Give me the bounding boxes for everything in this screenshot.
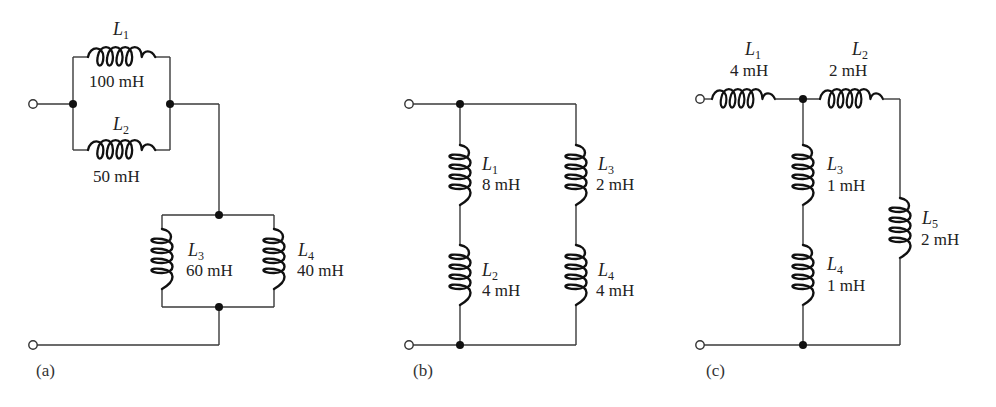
inductor-l3-name: L3 bbox=[826, 154, 843, 177]
panel-b: L1 8 mH L2 4 mH L3 2 mH L4 4 mH (b) bbox=[405, 100, 634, 380]
panel-c-caption: (c) bbox=[706, 361, 725, 380]
inductor-l3-coil-icon bbox=[793, 145, 814, 205]
inductor-l1-coil-icon bbox=[712, 89, 775, 108]
inductor-l1-value: 8 mH bbox=[482, 175, 520, 194]
inductor-l1-name: L1 bbox=[744, 39, 761, 62]
inductor-l1-value: 100 mH bbox=[89, 72, 144, 91]
inductor-l3-value: 2 mH bbox=[596, 175, 634, 194]
inductor-l4-coil-icon bbox=[566, 245, 587, 305]
inductor-l3-coil-icon bbox=[566, 145, 587, 205]
inductor-l2-coil-icon bbox=[450, 245, 471, 305]
inductor-l1-coil-icon bbox=[88, 47, 155, 66]
inductor-l2-value: 2 mH bbox=[829, 61, 867, 80]
panel-a: L1 100 mH L2 50 mH L3 60 mH L4 40 mH (a) bbox=[29, 19, 344, 380]
inductor-l5-value: 2 mH bbox=[921, 230, 959, 249]
panel-c: L1 4 mH L2 2 mH L3 1 mH L4 1 mH L5 2 mH … bbox=[696, 39, 959, 380]
inductor-l4-coil-icon bbox=[793, 245, 814, 305]
inductor-l2-coil-icon bbox=[820, 89, 883, 108]
terminal-icon bbox=[696, 95, 704, 103]
terminal-icon bbox=[696, 341, 704, 349]
inductor-l4-value: 1 mH bbox=[827, 276, 865, 295]
inductor-l4-name: L4 bbox=[597, 260, 614, 283]
inductor-l2-value: 4 mH bbox=[482, 281, 520, 300]
inductor-l4-value: 4 mH bbox=[596, 281, 634, 300]
inductor-l2-name: L2 bbox=[851, 39, 868, 62]
junction-dot-icon bbox=[215, 211, 223, 219]
inductor-circuits-figure: L1 100 mH L2 50 mH L3 60 mH L4 40 mH (a)… bbox=[0, 0, 996, 407]
inductor-l4-coil-icon bbox=[264, 229, 285, 289]
inductor-l1-value: 4 mH bbox=[730, 61, 768, 80]
junction-dot-icon bbox=[799, 95, 807, 103]
junction-dot-icon bbox=[166, 100, 174, 108]
inductor-l3-value: 60 mH bbox=[186, 261, 233, 280]
terminal-icon bbox=[29, 100, 37, 108]
junction-dot-icon bbox=[799, 341, 807, 349]
inductor-l4-name: L4 bbox=[826, 254, 843, 277]
inductor-l3-name: L3 bbox=[597, 154, 614, 177]
inductor-l4-name: L4 bbox=[297, 240, 314, 263]
inductor-l4-value: 40 mH bbox=[297, 261, 344, 280]
inductor-l1-name: L1 bbox=[481, 154, 498, 177]
inductor-l3-value: 1 mH bbox=[827, 176, 865, 195]
inductor-l5-coil-icon bbox=[890, 198, 911, 258]
inductor-l3-name: L3 bbox=[187, 240, 204, 263]
terminal-icon bbox=[405, 341, 413, 349]
junction-dot-icon bbox=[215, 303, 223, 311]
inductor-l5-name: L5 bbox=[921, 208, 938, 231]
inductor-l3-coil-icon bbox=[152, 229, 173, 289]
inductor-l1-coil-icon bbox=[450, 145, 471, 205]
inductor-l2-value: 50 mH bbox=[93, 167, 140, 186]
inductor-l2-name: L2 bbox=[112, 114, 129, 137]
inductor-l2-name: L2 bbox=[481, 260, 498, 283]
inductor-l1-name: L1 bbox=[112, 19, 129, 42]
panel-a-caption: (a) bbox=[36, 361, 55, 380]
panel-b-caption: (b) bbox=[413, 361, 433, 380]
terminal-icon bbox=[29, 341, 37, 349]
junction-dot-icon bbox=[69, 100, 77, 108]
junction-dot-icon bbox=[456, 100, 464, 108]
inductor-l2-coil-icon bbox=[88, 140, 155, 159]
terminal-icon bbox=[405, 100, 413, 108]
junction-dot-icon bbox=[456, 341, 464, 349]
